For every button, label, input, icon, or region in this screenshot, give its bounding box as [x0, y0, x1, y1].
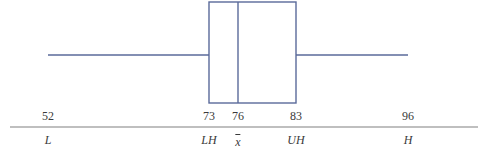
tick-label-minimum: 52	[42, 110, 54, 122]
median-overbar: x	[235, 134, 240, 148]
box-rect	[209, 2, 296, 103]
tick-label-maximum: 96	[402, 110, 414, 122]
symbol-label-maximum: H	[404, 134, 413, 146]
symbol-label-upper-hinge: UH	[287, 134, 304, 146]
symbol-label-lower-hinge: LH	[201, 134, 216, 146]
tick-label-upper-hinge: 83	[290, 110, 302, 122]
symbol-label-minimum: L	[45, 134, 52, 146]
tick-label-median: 76	[232, 110, 244, 122]
symbol-label-median: x	[235, 134, 240, 148]
boxplot-graphic	[0, 0, 493, 164]
tick-label-lower-hinge: 73	[203, 110, 215, 122]
boxplot-figure: 52 73 76 83 96 L LH x UH H	[0, 0, 493, 164]
